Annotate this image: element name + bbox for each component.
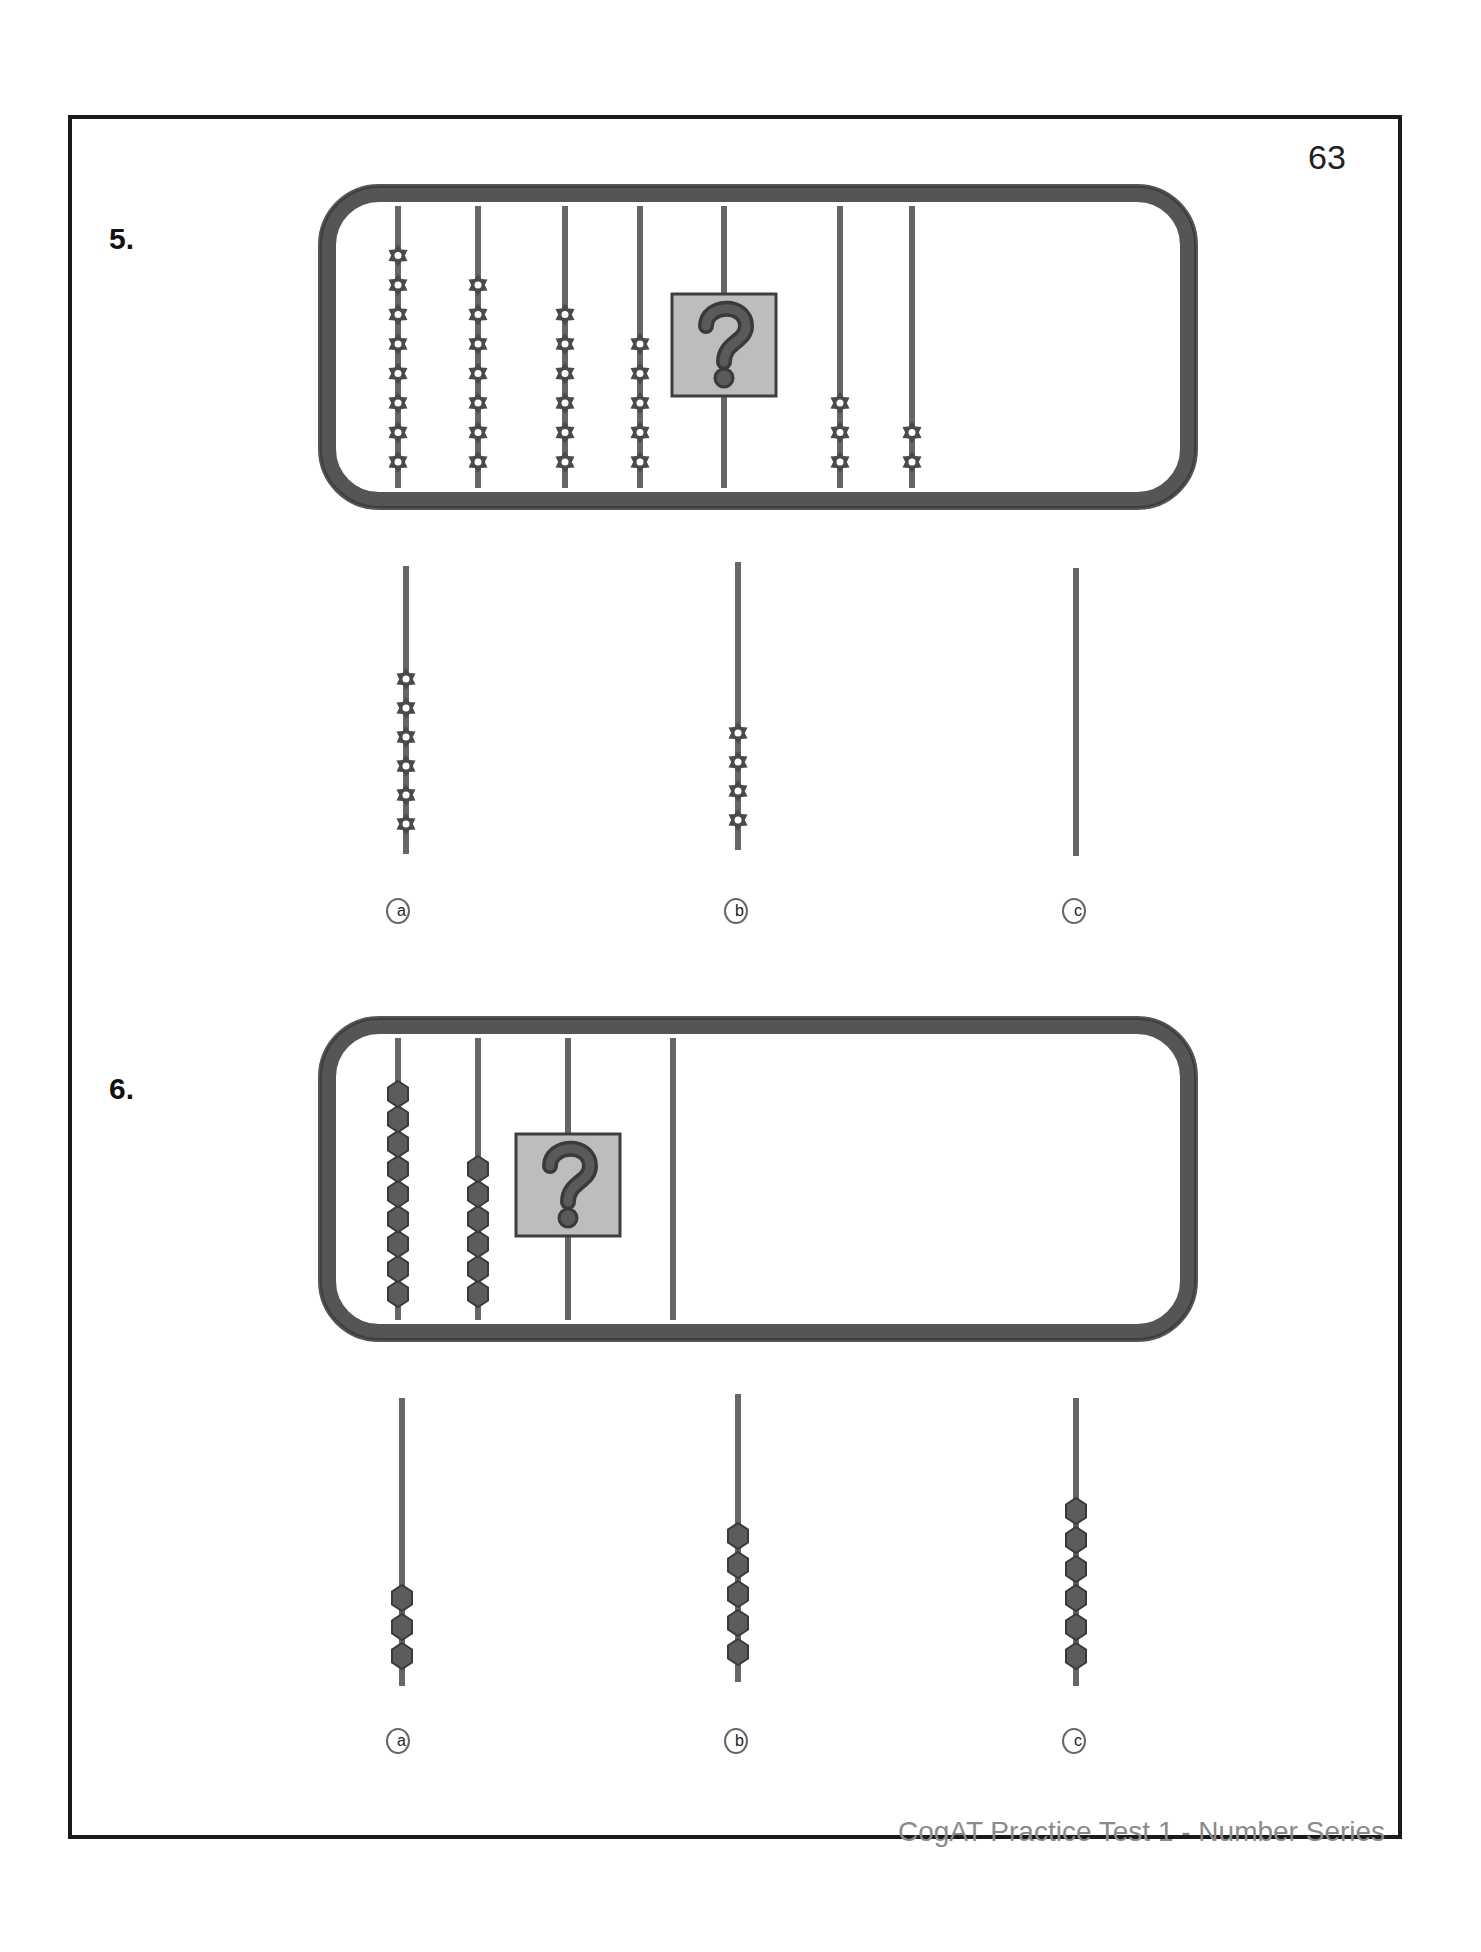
question-5-abacus: [318, 184, 1198, 510]
bead-icon: [397, 668, 416, 690]
question-6-choice-c-rod: [1046, 1392, 1106, 1692]
bead-icon: [1066, 1556, 1086, 1582]
footer-title: CogAT Practice Test 1 - Number Series: [898, 1816, 1385, 1848]
question-6-number: 6.: [109, 1072, 134, 1106]
bead-icon: [468, 1206, 488, 1232]
bead-icon: [388, 1156, 408, 1182]
bead-icon: [728, 1523, 748, 1549]
question-5-number: 5.: [109, 222, 134, 256]
bead-icon: [388, 1131, 408, 1157]
question-5-choice-a-rod: [376, 560, 436, 860]
bead-icon: [1066, 1614, 1086, 1640]
bead-icon: [729, 780, 748, 802]
bead-icon: [388, 1106, 408, 1132]
bead-icon: [728, 1581, 748, 1607]
question-5-choice-c-rod: [1046, 562, 1106, 862]
bead-icon: [1066, 1585, 1086, 1611]
bead-icon: [468, 1231, 488, 1257]
question-6-option-a[interactable]: a: [386, 1728, 410, 1754]
bead-icon: [388, 1231, 408, 1257]
bead-icon: [468, 1156, 488, 1182]
question-6-choice-a-rod: [372, 1392, 432, 1692]
bead-icon: [1066, 1498, 1086, 1524]
bead-icon: [397, 755, 416, 777]
abacus-rod: [670, 1038, 676, 1320]
bead-icon: [729, 722, 748, 744]
bead-icon: [392, 1585, 412, 1611]
bead-icon: [397, 813, 416, 835]
bead-icon: [728, 1552, 748, 1578]
bead-icon: [468, 1281, 488, 1307]
bead-icon: [392, 1643, 412, 1669]
question-mark-icon: [672, 294, 776, 396]
question-6-choice-b-rod: [708, 1388, 768, 1688]
page-number: 63: [1308, 138, 1346, 177]
bead-icon: [468, 1181, 488, 1207]
bead-icon: [1066, 1643, 1086, 1669]
bead-icon: [388, 1181, 408, 1207]
question-5-option-c[interactable]: c: [1062, 898, 1086, 924]
question-6-option-c[interactable]: c: [1062, 1728, 1086, 1754]
bead-icon: [388, 1281, 408, 1307]
question-6-option-b[interactable]: b: [724, 1728, 748, 1754]
bead-icon: [392, 1614, 412, 1640]
abacus-rod: [837, 206, 843, 488]
bead-icon: [397, 784, 416, 806]
bead-icon: [728, 1610, 748, 1636]
bead-icon: [388, 1256, 408, 1282]
question-mark-icon: [516, 1134, 620, 1236]
bead-icon: [468, 1256, 488, 1282]
bead-icon: [397, 697, 416, 719]
question-5-choice-b-rod: [708, 556, 768, 856]
bead-icon: [729, 751, 748, 773]
bead-icon: [1066, 1527, 1086, 1553]
question-5-option-a[interactable]: a: [386, 898, 410, 924]
bead-icon: [728, 1639, 748, 1665]
bead-icon: [729, 809, 748, 831]
question-6-abacus: [318, 1016, 1198, 1342]
bead-icon: [388, 1206, 408, 1232]
bead-icon: [397, 726, 416, 748]
abacus-rod: [909, 206, 915, 488]
question-5-option-b[interactable]: b: [724, 898, 748, 924]
bead-icon: [388, 1081, 408, 1107]
